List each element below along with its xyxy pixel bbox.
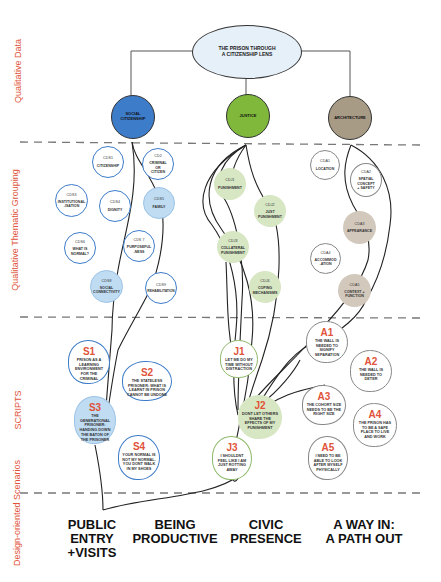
- code-node-cda4: CDA4ACCOMMOD -ATION: [310, 243, 341, 274]
- code-node-cd2: CD2CRIMINAL OR CITIZEN: [142, 148, 174, 180]
- theme-justice: JUSTICE: [226, 94, 270, 138]
- code-node-cds9: CDS9REHABILITATION: [145, 272, 177, 304]
- code-node-cdj2: CDJ2JUST PUNISHMENT: [254, 195, 286, 227]
- section-label-thematic-grouping: Qualitative Thematic Grouping: [10, 160, 20, 300]
- code-node-cds8: CDS8SOCIAL CONNECTIVITY: [90, 270, 123, 303]
- main-title-node: THE PRISON THROUGH A CITIZENSHIP LENS: [192, 25, 302, 79]
- code-node-cda1: CDA1LOCATION: [310, 150, 340, 180]
- code-node-cds6: CDS6WHAT IS NORMAL?: [64, 232, 96, 264]
- script-j1: J1LET ME DO MY TIME WITHOUT DISTRACTION: [220, 340, 258, 378]
- code-node-cda2: CDA2SPATIAL CONCEPT + SAFETY: [350, 163, 382, 197]
- section-label-scripts: SCRIPTS: [13, 390, 23, 430]
- code-node-cds7: CDS 7PURPOSEFUL -NESS: [123, 230, 155, 262]
- scenario-public-entry-visits: PUBLIC ENTRY +VISITS: [62, 518, 122, 560]
- script-j3: J3I SHOULDNT FEEL LIKE I AM JUST ROTTING…: [212, 436, 252, 480]
- code-node-cda5: CDA5CONTEXT + FUNCTION: [338, 274, 371, 307]
- script-s1: S1PRISON AS A LEARNING ENVIRONMENT FOR T…: [68, 340, 110, 384]
- script-j2: J2DONT LET OTHERS SHARE THE EFFECTS OF M…: [238, 395, 282, 439]
- script-a1: A1THE WALL IS NEEDED TO SIGNIFY SEPARATI…: [306, 321, 348, 363]
- script-s3: S3THE GENERATIONAL PRISONER: HANDING DOW…: [74, 396, 116, 444]
- code-node-cds4: CDS4DIGNITY: [99, 190, 131, 222]
- script-s4: S4YOUR NORMAL IS NOT MY NORMAL. YOU DONT…: [118, 435, 160, 480]
- code-node-cdj3: CDJ3COLLATERAL PUNISHMENT: [217, 231, 249, 263]
- script-a4: A4THE PRISON HAS TO BE A SAFE PLACE TO L…: [353, 403, 397, 447]
- theme-social-citizenship: SOCIAL CITIZENSHIP: [111, 95, 155, 139]
- script-a5: A5I NEED TO BE ABLE TO LOOK AFTER MYSELF…: [308, 436, 348, 480]
- code-node-cds3: CDS3INSTITUTIONAL -ISATION: [55, 184, 88, 217]
- scenario-being-productive: BEING PRODUCTIVE: [132, 518, 218, 546]
- citizenship-lens-diagram: Qualitative Data Qualitative Thematic Gr…: [0, 0, 441, 582]
- code-node-cdj1: CDJ1PUNISHMENT: [214, 168, 246, 200]
- code-node-cda3: CDA3APPEARANCE: [343, 211, 376, 244]
- section-label-qualitative-data: Qualitative Data: [13, 43, 23, 103]
- scenario-civic-presence: CIVIC PRESENCE: [228, 518, 304, 546]
- code-node-cds1: CDS1CITIZENSHIP: [92, 146, 124, 178]
- section-label-design-scenarios: Design-oriented Scenarios: [12, 504, 22, 566]
- theme-architecture: ARCHITECTURE: [328, 96, 372, 140]
- main-title: THE PRISON THROUGH A CITIZENSHIP LENS: [193, 46, 301, 58]
- script-a3: A3THE COHORT SIZE NEEDS TO BE THE RIGHT …: [302, 385, 346, 425]
- script-s2: S2THE STATELESS PRISONER: WHAT IS LEARNT…: [122, 361, 172, 401]
- code-node-cdj4: CDJ4COPING MECHANISMS: [249, 271, 281, 303]
- scenario-a-way-in-a-path-out: A WAY IN: A PATH OUT: [324, 518, 404, 546]
- connector-lines: [0, 0, 441, 582]
- script-a2: A2THE WALL IS NEEDED TO DETER: [350, 350, 392, 392]
- code-node-cds5: CDS5FAMILY: [143, 187, 175, 219]
